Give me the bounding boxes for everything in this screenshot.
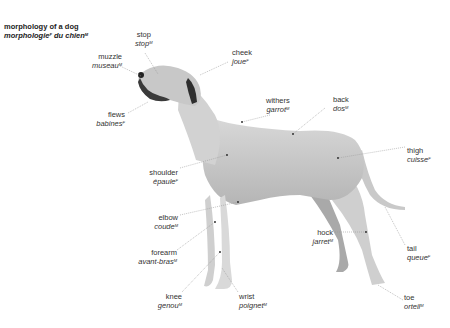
label-cheek: cheekjoueF [232, 48, 252, 66]
label-elbow: elbowcoudeM [140, 213, 178, 231]
label-knee: kneegenouM [150, 292, 182, 310]
label-back: backdosM [333, 95, 349, 113]
label-thigh: thighcuisseF [407, 146, 431, 164]
dog-illustration [0, 0, 450, 328]
label-hock: hockjarretM [300, 228, 333, 246]
label-muzzle: muzzlemuseauM [88, 52, 122, 70]
label-tail: tailqueueF [407, 244, 430, 262]
label-shoulder: shoulderépauleF [135, 168, 178, 186]
label-wrist: wristpoignetM [239, 292, 267, 310]
label-withers: withersgarrotM [266, 96, 290, 114]
label-stop: stopstopM [135, 30, 153, 48]
label-forearm: forearmavant-brasM [130, 248, 177, 266]
label-flews: flewsbabinesF [88, 110, 125, 128]
label-toe: toeorteilM [404, 293, 424, 311]
